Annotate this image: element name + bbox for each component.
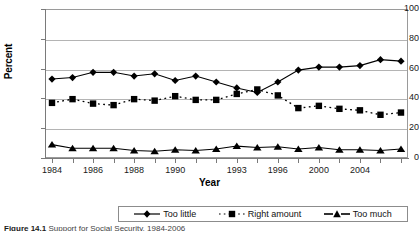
x-tick-mark-1990 — [175, 159, 176, 163]
x-tick-mark-1998 — [298, 159, 299, 163]
legend-item-too-much[interactable]: Too much — [324, 209, 392, 219]
series-too-little — [48, 56, 404, 96]
data-point — [357, 107, 363, 113]
x-tick-mark-1988 — [134, 159, 135, 163]
data-point — [377, 56, 384, 63]
data-point — [275, 92, 281, 98]
x-tick-label-1996: 1996 — [258, 165, 298, 175]
x-tick-label-2004: 2004 — [340, 165, 380, 175]
data-point — [336, 106, 342, 112]
x-axis-line — [45, 158, 409, 159]
data-point — [49, 100, 55, 106]
x-tick-label-2000: 2000 — [299, 165, 339, 175]
series-right-amount — [49, 86, 404, 118]
data-point — [131, 96, 137, 102]
series-line-1 — [52, 89, 401, 114]
legend-item-too-little[interactable]: Too little — [134, 209, 196, 219]
data-point — [151, 70, 158, 77]
x-tick-mark-1993 — [237, 159, 238, 163]
data-point — [151, 97, 157, 103]
x-tick-mark-1989 — [155, 159, 156, 163]
chart-legend: Too little Right amount Too much — [118, 206, 408, 222]
series-line-2 — [52, 145, 401, 152]
series-line-0 — [52, 60, 401, 93]
data-point — [110, 102, 116, 108]
x-tick-label-1988: 1988 — [114, 165, 154, 175]
x-tick-mark-1984 — [52, 159, 53, 163]
data-series-layer — [45, 9, 408, 158]
x-tick-mark-1994 — [257, 159, 258, 163]
data-point — [69, 74, 76, 81]
data-point — [48, 141, 56, 147]
series-too-much — [48, 141, 405, 154]
data-point — [131, 72, 138, 79]
data-point — [89, 69, 96, 76]
data-point — [48, 75, 55, 82]
data-point — [234, 91, 240, 97]
data-point — [274, 78, 281, 85]
data-point — [110, 69, 117, 76]
x-tick-mark-2000 — [319, 159, 320, 163]
x-tick-mark-2004 — [360, 159, 361, 163]
data-point — [356, 62, 363, 69]
triangle-icon — [324, 209, 350, 219]
data-point — [398, 109, 404, 115]
y-tick-mark-0 — [41, 158, 45, 159]
x-tick-label-1986: 1986 — [73, 165, 113, 175]
data-point — [315, 64, 322, 71]
diamond-icon — [134, 209, 160, 219]
square-icon — [219, 209, 245, 219]
data-point — [172, 93, 178, 99]
data-point — [90, 100, 96, 106]
data-point — [172, 77, 179, 84]
figure-container: 100806040200 Percent 1984198619881990199… — [0, 0, 419, 231]
data-point — [397, 58, 404, 65]
x-tick-mark-2006 — [401, 159, 402, 163]
x-tick-mark-1992 — [216, 159, 217, 163]
data-point — [213, 97, 219, 103]
x-tick-mark-1986 — [93, 159, 94, 163]
legend-label-too-much: Too much — [353, 209, 392, 219]
data-point — [295, 105, 301, 111]
x-tick-mark-2002 — [339, 159, 340, 163]
legend-label-right-amount: Right amount — [248, 209, 302, 219]
x-tick-mark-2005 — [380, 159, 381, 163]
caption-text: Support for Social Security, 1984-2006 — [48, 224, 185, 231]
data-point — [295, 66, 302, 73]
data-point — [336, 64, 343, 71]
x-tick-mark-1987 — [114, 159, 115, 163]
x-tick-label-1993: 1993 — [217, 165, 257, 175]
x-tick-mark-1985 — [73, 159, 74, 163]
y-axis-title: Percent — [3, 27, 14, 97]
data-point — [193, 97, 199, 103]
figure-caption: Figure 14.1 Support for Social Security,… — [4, 224, 415, 231]
data-point — [254, 86, 260, 92]
data-point — [233, 84, 240, 91]
x-tick-label-1984: 1984 — [32, 165, 72, 175]
caption-number: Figure 14.1 — [4, 224, 46, 231]
legend-label-too-little: Too little — [163, 209, 196, 219]
data-point — [192, 72, 199, 79]
data-point — [316, 103, 322, 109]
x-tick-mark-1991 — [196, 159, 197, 163]
x-tick-label-1990: 1990 — [155, 165, 195, 175]
data-point — [377, 112, 383, 118]
data-point — [69, 96, 75, 102]
x-axis-title: Year — [0, 177, 419, 188]
x-tick-mark-1996 — [278, 159, 279, 163]
legend-item-right-amount[interactable]: Right amount — [219, 209, 302, 219]
data-point — [213, 78, 220, 85]
